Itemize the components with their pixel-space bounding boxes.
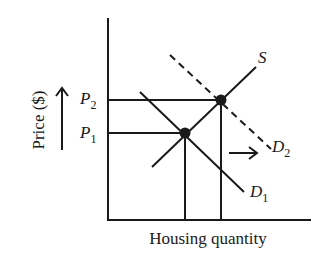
- demand-label-d2: D2: [271, 137, 290, 160]
- price-label-p1: P1: [79, 123, 96, 146]
- right-arrow-icon: [229, 147, 257, 159]
- supply-label: S: [258, 48, 267, 67]
- housing-supply-demand-diagram: Price ($) Housing quantity P2 P1 S D2 D1: [0, 0, 318, 263]
- equilibrium-point-initial: [180, 128, 191, 139]
- price-label-p2: P2: [79, 89, 96, 112]
- equilibrium-point-new: [216, 95, 227, 106]
- up-arrow-icon: [56, 88, 68, 150]
- demand-curve-d1: [140, 92, 244, 192]
- x-axis-label: Housing quantity: [149, 229, 267, 248]
- demand-label-d1: D1: [249, 182, 268, 205]
- y-axis-label: Price ($): [29, 90, 48, 149]
